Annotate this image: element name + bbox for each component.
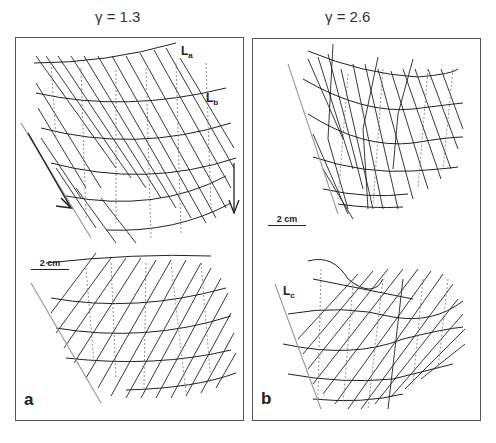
panel-a-title: γ = 1.3 — [95, 8, 140, 25]
panel-label-a: a — [24, 390, 33, 410]
scale-bar-line — [31, 269, 69, 270]
panel-b-drawing — [253, 39, 482, 422]
panel-b-title: γ = 2.6 — [325, 8, 370, 25]
scale-bar-line — [268, 225, 306, 226]
scale-bar-a: 2 cm — [31, 258, 69, 270]
line-label-lb: Lb — [206, 91, 218, 107]
panel-b: Lc 2 cm b — [252, 38, 481, 421]
panel-label-b: b — [261, 389, 271, 409]
line-label-lc: Lc — [283, 284, 295, 300]
scale-bar-b: 2 cm — [268, 214, 306, 226]
panel-a: La Lb 2 cm a — [15, 37, 244, 421]
line-label-la: La — [181, 44, 193, 60]
